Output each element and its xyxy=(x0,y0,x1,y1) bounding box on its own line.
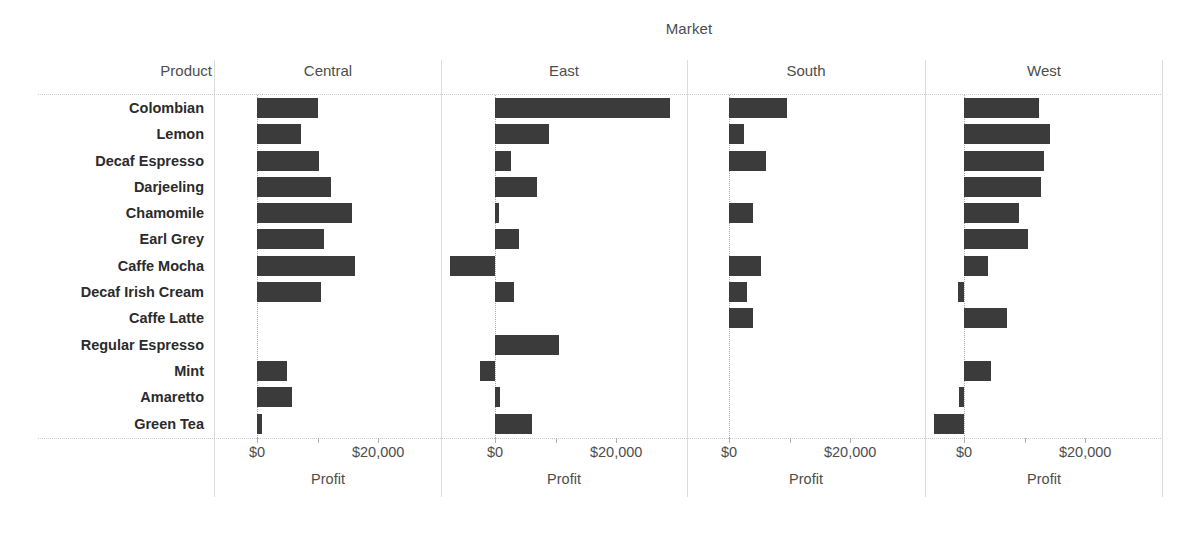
bar[interactable] xyxy=(958,282,964,302)
axis-title: Profit xyxy=(925,471,1163,487)
bar[interactable] xyxy=(495,387,500,407)
bar-row xyxy=(215,384,441,410)
axis-title: Profit xyxy=(441,471,687,487)
bar[interactable] xyxy=(964,256,988,276)
bar[interactable] xyxy=(964,308,1007,328)
bar[interactable] xyxy=(257,151,319,171)
axis-tick-label: $20,000 xyxy=(590,444,642,460)
bar[interactable] xyxy=(959,387,964,407)
axis-tick xyxy=(964,438,965,443)
bar[interactable] xyxy=(729,124,744,144)
bar[interactable] xyxy=(964,151,1044,171)
bar-row xyxy=(687,200,925,226)
panel-west xyxy=(925,95,1163,438)
product-label: Green Tea xyxy=(0,411,212,437)
axis-tick xyxy=(729,438,730,443)
bar-row xyxy=(687,411,925,437)
bar[interactable] xyxy=(729,151,766,171)
bar[interactable] xyxy=(257,124,301,144)
panel-header-east: East xyxy=(441,58,687,84)
product-label-column: ColombianLemonDecaf EspressoDarjeelingCh… xyxy=(0,95,212,437)
bar[interactable] xyxy=(495,151,511,171)
bar[interactable] xyxy=(257,361,287,381)
bar-row xyxy=(925,384,1163,410)
bar-row xyxy=(215,200,441,226)
bar-row xyxy=(215,253,441,279)
product-label: Lemon xyxy=(0,121,212,147)
bar[interactable] xyxy=(450,256,495,276)
axis-tick xyxy=(850,438,851,443)
bar-row xyxy=(441,253,687,279)
bar[interactable] xyxy=(257,387,292,407)
bar[interactable] xyxy=(495,414,532,434)
bar-row xyxy=(215,148,441,174)
bar-row xyxy=(925,95,1163,121)
bar[interactable] xyxy=(257,414,262,434)
bar[interactable] xyxy=(257,229,324,249)
axis-tick xyxy=(556,438,557,443)
bar-row xyxy=(687,174,925,200)
bar[interactable] xyxy=(257,98,318,118)
bar-row xyxy=(925,148,1163,174)
bar-row xyxy=(687,384,925,410)
bar-rows xyxy=(687,95,925,438)
bar[interactable] xyxy=(495,177,537,197)
bar[interactable] xyxy=(495,229,519,249)
bar[interactable] xyxy=(729,308,753,328)
axis-tick xyxy=(790,438,791,443)
product-label: Regular Espresso xyxy=(0,332,212,358)
bar-row xyxy=(687,305,925,331)
bar[interactable] xyxy=(495,282,514,302)
bar-row xyxy=(441,279,687,305)
profit-by-product-and-market-chart: Market Product Central East South West C… xyxy=(0,0,1183,534)
axis-tick xyxy=(616,438,617,443)
bar[interactable] xyxy=(495,335,559,355)
bar[interactable] xyxy=(729,98,787,118)
bar[interactable] xyxy=(934,414,964,434)
axis-central: $0$20,000Profit xyxy=(215,438,441,498)
bar-row xyxy=(215,411,441,437)
bar[interactable] xyxy=(729,256,761,276)
product-label: Decaf Irish Cream xyxy=(0,279,212,305)
bar-row xyxy=(441,226,687,252)
bar[interactable] xyxy=(729,282,747,302)
axis-tick xyxy=(495,438,496,443)
bar-row xyxy=(441,384,687,410)
product-label: Caffe Latte xyxy=(0,305,212,331)
bar[interactable] xyxy=(257,203,352,223)
bar[interactable] xyxy=(964,98,1039,118)
bar[interactable] xyxy=(480,361,495,381)
axis-south: $0$20,000Profit xyxy=(687,438,925,498)
panel-east xyxy=(441,95,687,438)
bar[interactable] xyxy=(257,282,321,302)
bar[interactable] xyxy=(964,124,1050,144)
bar-row xyxy=(925,253,1163,279)
bar-row xyxy=(687,121,925,147)
bar-rows xyxy=(925,95,1163,438)
bar-row xyxy=(925,226,1163,252)
bar-row xyxy=(215,174,441,200)
bar-row xyxy=(687,226,925,252)
axis-tick-label: $0 xyxy=(721,444,737,460)
bar[interactable] xyxy=(964,177,1041,197)
bar[interactable] xyxy=(495,98,670,118)
product-label: Chamomile xyxy=(0,200,212,226)
product-label: Decaf Espresso xyxy=(0,148,212,174)
bar-row xyxy=(215,95,441,121)
bar[interactable] xyxy=(964,203,1019,223)
bar[interactable] xyxy=(729,203,753,223)
bar[interactable] xyxy=(495,124,549,144)
bar[interactable] xyxy=(964,229,1028,249)
bar-row xyxy=(215,358,441,384)
panel-header-west: West xyxy=(925,58,1163,84)
axis-east: $0$20,000Profit xyxy=(441,438,687,498)
bar[interactable] xyxy=(964,361,991,381)
bar-row xyxy=(687,279,925,305)
bar[interactable] xyxy=(257,177,331,197)
bar[interactable] xyxy=(495,203,499,223)
panel-header-central: Central xyxy=(215,58,441,84)
bar-row xyxy=(925,279,1163,305)
bar[interactable] xyxy=(257,256,355,276)
bar-rows xyxy=(215,95,441,438)
bar-row xyxy=(441,305,687,331)
